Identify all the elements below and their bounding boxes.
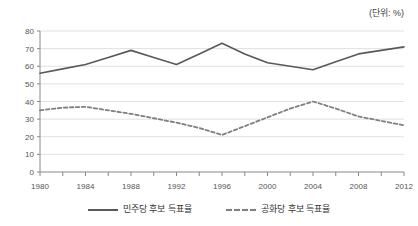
x-tick-label: 2004 [304, 182, 322, 191]
series-line-democrat [40, 43, 404, 73]
legend-label-democrat: 민주당 후보 득표율 [123, 205, 192, 214]
plot-area: 01020304050607080 1980198419881992199620… [0, 0, 418, 226]
chart-svg: 01020304050607080 1980198419881992199620… [0, 0, 418, 226]
x-tick-label: 1996 [213, 182, 231, 191]
y-tick-label: 20 [25, 133, 34, 142]
gridlines [40, 31, 404, 154]
legend-line-solid-icon [88, 209, 118, 211]
y-tick-label: 10 [25, 150, 34, 159]
y-tick-label: 60 [25, 62, 34, 71]
chart-legend: 민주당 후보 득표율 공화당 후보 득표율 [0, 205, 418, 214]
legend-item-democrat[interactable]: 민주당 후보 득표율 [88, 205, 192, 214]
line-chart-figure: (단위: %) 01020304050607080 19801984198819… [0, 0, 418, 226]
legend-line-dashed-icon [226, 209, 256, 211]
series-lines [40, 43, 404, 135]
y-tick-labels: 01020304050607080 [25, 27, 34, 177]
x-tick-labels: 198019841988199219962000200420082012 [31, 182, 413, 191]
y-tick-label: 40 [25, 98, 34, 107]
x-tick-label: 2000 [259, 182, 277, 191]
x-tick-label: 2008 [350, 182, 368, 191]
y-tick-label: 0 [30, 168, 35, 177]
x-tick-label: 1988 [122, 182, 140, 191]
x-tick-label: 2012 [395, 182, 413, 191]
x-axis [40, 172, 404, 176]
legend-item-republican[interactable]: 공화당 후보 득표율 [226, 205, 330, 214]
y-tick-label: 70 [25, 45, 34, 54]
legend-label-republican: 공화당 후보 득표율 [261, 205, 330, 214]
x-tick-label: 1984 [77, 182, 95, 191]
y-axis [37, 31, 40, 172]
x-tick-label: 1980 [31, 182, 49, 191]
series-line-republican [40, 102, 404, 135]
y-tick-label: 80 [25, 27, 34, 36]
y-tick-label: 50 [25, 80, 34, 89]
y-tick-label: 30 [25, 115, 34, 124]
x-tick-label: 1992 [168, 182, 186, 191]
